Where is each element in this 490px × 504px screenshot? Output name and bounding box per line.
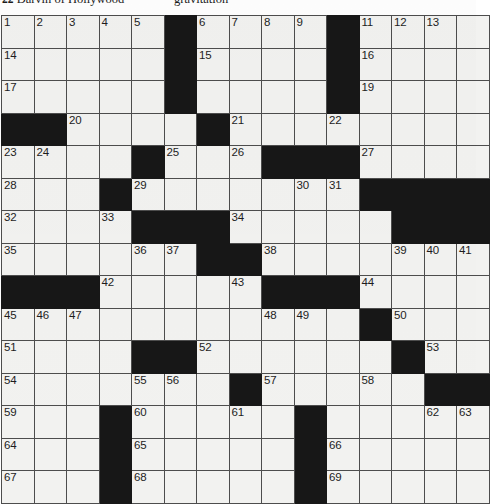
grid-cell[interactable] (457, 113, 490, 146)
grid-cell[interactable] (197, 471, 230, 504)
grid-cell[interactable] (132, 81, 165, 114)
grid-cell[interactable] (327, 211, 360, 244)
grid-cell[interactable] (34, 81, 67, 114)
grid-cell[interactable] (424, 276, 457, 309)
grid-cell[interactable]: 60 (132, 406, 165, 439)
grid-cell[interactable] (34, 48, 67, 81)
grid-cell[interactable]: 37 (164, 243, 197, 276)
grid-cell[interactable] (67, 178, 100, 211)
grid-cell[interactable] (262, 113, 295, 146)
grid-cell[interactable]: 66 (327, 438, 360, 471)
grid-cell[interactable]: 26 (229, 146, 262, 179)
grid-cell[interactable] (457, 276, 490, 309)
grid-cell[interactable] (262, 406, 295, 439)
grid-cell[interactable] (262, 48, 295, 81)
grid-cell[interactable] (34, 211, 67, 244)
grid-cell[interactable] (99, 146, 132, 179)
grid-cell[interactable] (457, 471, 490, 504)
grid-cell[interactable] (67, 406, 100, 439)
grid-cell[interactable]: 59 (2, 406, 35, 439)
grid-cell[interactable] (457, 48, 490, 81)
grid-cell[interactable] (457, 16, 490, 49)
grid-cell[interactable]: 61 (229, 406, 262, 439)
grid-cell[interactable] (67, 48, 100, 81)
grid-cell[interactable] (164, 308, 197, 341)
grid-cell[interactable]: 7 (229, 16, 262, 49)
grid-cell[interactable]: 12 (392, 16, 425, 49)
grid-cell[interactable]: 46 (34, 308, 67, 341)
grid-cell[interactable] (99, 308, 132, 341)
grid-cell[interactable]: 41 (457, 243, 490, 276)
grid-cell[interactable]: 32 (2, 211, 35, 244)
grid-cell[interactable]: 28 (2, 178, 35, 211)
grid-cell[interactable] (392, 438, 425, 471)
grid-cell[interactable] (424, 146, 457, 179)
grid-cell[interactable] (67, 438, 100, 471)
grid-cell[interactable]: 63 (457, 406, 490, 439)
grid-cell[interactable] (392, 471, 425, 504)
grid-cell[interactable] (34, 178, 67, 211)
grid-cell[interactable] (34, 406, 67, 439)
grid-cell[interactable]: 16 (359, 48, 392, 81)
grid-cell[interactable]: 42 (99, 276, 132, 309)
grid-cell[interactable]: 14 (2, 48, 35, 81)
grid-cell[interactable]: 55 (132, 373, 165, 406)
grid-cell[interactable] (197, 81, 230, 114)
grid-cell[interactable]: 19 (359, 81, 392, 114)
grid-cell[interactable]: 39 (392, 243, 425, 276)
grid-cell[interactable] (392, 146, 425, 179)
grid-cell[interactable]: 50 (392, 308, 425, 341)
grid-cell[interactable]: 38 (262, 243, 295, 276)
grid-cell[interactable] (164, 178, 197, 211)
grid-cell[interactable] (99, 48, 132, 81)
grid-cell[interactable]: 23 (2, 146, 35, 179)
grid-cell[interactable] (229, 178, 262, 211)
grid-cell[interactable] (392, 81, 425, 114)
grid-cell[interactable]: 3 (67, 16, 100, 49)
grid-cell[interactable] (197, 308, 230, 341)
grid-cell[interactable] (164, 471, 197, 504)
grid-cell[interactable] (197, 178, 230, 211)
grid-cell[interactable] (67, 81, 100, 114)
grid-cell[interactable]: 43 (229, 276, 262, 309)
grid-cell[interactable]: 31 (327, 178, 360, 211)
grid-cell[interactable] (457, 81, 490, 114)
grid-cell[interactable]: 48 (262, 308, 295, 341)
grid-cell[interactable] (197, 146, 230, 179)
grid-cell[interactable] (294, 341, 327, 374)
grid-cell[interactable]: 8 (262, 16, 295, 49)
grid-cell[interactable]: 6 (197, 16, 230, 49)
grid-cell[interactable] (99, 81, 132, 114)
grid-cell[interactable] (229, 438, 262, 471)
grid-cell[interactable]: 49 (294, 308, 327, 341)
grid-cell[interactable] (327, 243, 360, 276)
grid-cell[interactable] (67, 471, 100, 504)
grid-cell[interactable]: 68 (132, 471, 165, 504)
grid-cell[interactable] (164, 113, 197, 146)
grid-cell[interactable]: 47 (67, 308, 100, 341)
grid-cell[interactable]: 40 (424, 243, 457, 276)
grid-cell[interactable] (392, 406, 425, 439)
grid-cell[interactable]: 22 (327, 113, 360, 146)
grid-cell[interactable] (132, 113, 165, 146)
grid-cell[interactable]: 17 (2, 81, 35, 114)
grid-cell[interactable]: 24 (34, 146, 67, 179)
grid-cell[interactable] (424, 113, 457, 146)
grid-cell[interactable] (164, 438, 197, 471)
grid-cell[interactable] (229, 81, 262, 114)
grid-cell[interactable] (99, 373, 132, 406)
grid-cell[interactable] (197, 373, 230, 406)
grid-cell[interactable] (262, 471, 295, 504)
grid-cell[interactable]: 27 (359, 146, 392, 179)
grid-cell[interactable] (99, 243, 132, 276)
grid-cell[interactable]: 35 (2, 243, 35, 276)
grid-cell[interactable]: 34 (229, 211, 262, 244)
grid-cell[interactable] (327, 406, 360, 439)
grid-cell[interactable]: 4 (99, 16, 132, 49)
grid-cell[interactable]: 57 (262, 373, 295, 406)
grid-cell[interactable]: 5 (132, 16, 165, 49)
grid-cell[interactable]: 1 (2, 16, 35, 49)
grid-cell[interactable] (197, 438, 230, 471)
grid-cell[interactable] (359, 243, 392, 276)
grid-cell[interactable]: 36 (132, 243, 165, 276)
